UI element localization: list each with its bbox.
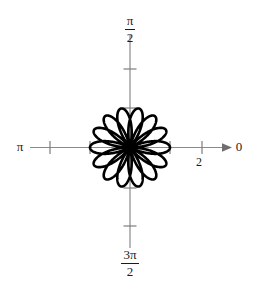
three-pi-over-2-numerator: 3π <box>121 248 138 264</box>
axis-label-pi: π <box>12 140 28 153</box>
axis-label-pi-over-2: π 2 <box>112 14 148 44</box>
axis-arrow-icon <box>222 143 232 151</box>
radial-tick-label-2: 2 <box>196 156 202 168</box>
axis-label-3pi-over-2: 3π 2 <box>110 248 150 278</box>
three-pi-over-2-denominator: 2 <box>121 264 138 279</box>
pi-over-2-denominator: 2 <box>125 30 136 45</box>
polar-rose-figure: π 2 3π 2 π 0 2 <box>0 0 254 295</box>
axis-label-zero: 0 <box>232 140 246 153</box>
pi-over-2-numerator: π <box>125 14 136 30</box>
